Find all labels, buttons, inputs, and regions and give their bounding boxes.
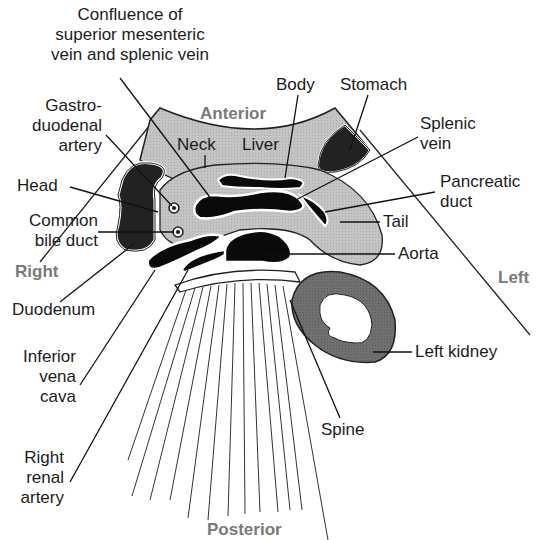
label-liver: Liver — [242, 135, 279, 155]
label-head: Head — [17, 176, 58, 196]
label-aorta: Aorta — [398, 244, 439, 264]
direction-posterior: Posterior — [207, 520, 282, 540]
spine-shape — [175, 270, 300, 292]
direction-anterior: Anterior — [200, 104, 266, 124]
label-gastroduodenal-artery: Gastro- duodenal artery — [10, 96, 102, 156]
direction-left: Left — [498, 268, 529, 288]
label-left-kidney: Left kidney — [415, 342, 497, 362]
label-inferior-vena-cava: Inferior vena cava — [10, 347, 76, 407]
label-stomach: Stomach — [340, 75, 407, 95]
label-tail: Tail — [383, 212, 409, 232]
label-pancreatic-duct: Pancreatic duct — [440, 172, 520, 212]
aorta-shape — [225, 231, 291, 264]
label-confluence: Confluence of superior mesenteric vein a… — [12, 5, 248, 65]
label-duodenum: Duodenum — [12, 300, 95, 320]
label-common-bile-duct: Common bile duct — [10, 211, 98, 251]
pancreas-diagram — [0, 0, 538, 540]
direction-right: Right — [15, 262, 58, 282]
label-splenic-vein: Splenic vein — [420, 114, 476, 154]
label-body: Body — [276, 75, 315, 95]
label-neck: Neck — [177, 135, 216, 155]
label-right-renal-artery: Right renal artery — [10, 448, 64, 508]
label-spine: Spine — [321, 420, 364, 440]
